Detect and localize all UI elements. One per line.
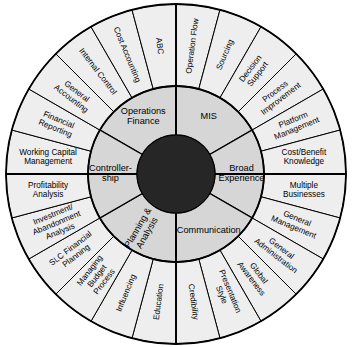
wheel-svg-canvas: Operation FlowSourcingDecisionSupportPro… (0, 0, 354, 347)
inner-segment-label-mis: MIS (201, 112, 217, 122)
wheel-hub[interactable] (137, 135, 215, 213)
competency-wheel-diagram: Operation FlowSourcingDecisionSupportPro… (0, 0, 354, 347)
outer-segment-label-profitability-analysis: ProfitabilityAnalysis (28, 181, 69, 199)
inner-segment-label-communication: Communication (177, 225, 241, 235)
outer-segment-label-cost-benefit-knowledge: Cost/BenefitKnowledge (282, 148, 327, 166)
inner-segment-label-operations-finance: OperationsFinance (121, 107, 166, 127)
outer-segment-label-working-capital-management: Working CapitalManagement (19, 148, 77, 166)
